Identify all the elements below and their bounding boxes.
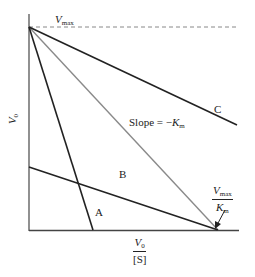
y-axis-label: V0 [6, 114, 20, 124]
reference-line [29, 27, 218, 230]
line-a [29, 27, 93, 230]
line-c [29, 27, 237, 125]
line-a-label: A [95, 207, 103, 218]
line-b-label: B [119, 169, 126, 180]
line-c-label: C [214, 104, 221, 115]
x-axis-label: V0 [S] [133, 236, 146, 265]
intercept-label: Vmax Km [212, 184, 233, 215]
vmax-label: Vmax [55, 14, 74, 27]
slope-label: Slope = −Km [129, 117, 185, 130]
plot-canvas [0, 0, 255, 277]
